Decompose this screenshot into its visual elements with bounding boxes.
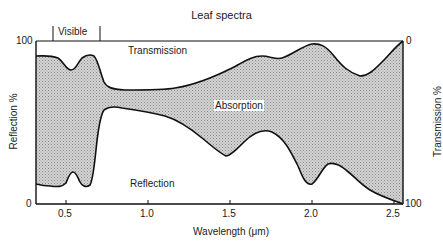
absorption-label: Absorption (214, 100, 264, 111)
y-tick-left-bottom: 0 (26, 198, 32, 209)
x-tick-label: 1.5 (222, 208, 236, 219)
transmission-label: Transmission (128, 45, 187, 56)
reflection-label: Reflection (130, 178, 174, 189)
y-axis-label-right: Transmission % (432, 77, 443, 167)
y-tick-left-top: 100 (16, 35, 33, 46)
x-tick-label: 2.0 (304, 208, 318, 219)
x-tick-label: 1.0 (140, 208, 154, 219)
y-tick-right-top: 0 (406, 35, 412, 46)
y-axis-label-left: Reflection % (8, 87, 19, 157)
x-tick-label: 2.5 (386, 208, 400, 219)
visible-label: Visible (58, 26, 87, 37)
y-tick-right-bottom: 100 (405, 198, 422, 209)
x-tick-label: 0.5 (58, 208, 72, 219)
x-axis-label: Wavelength (μm) (193, 226, 269, 237)
